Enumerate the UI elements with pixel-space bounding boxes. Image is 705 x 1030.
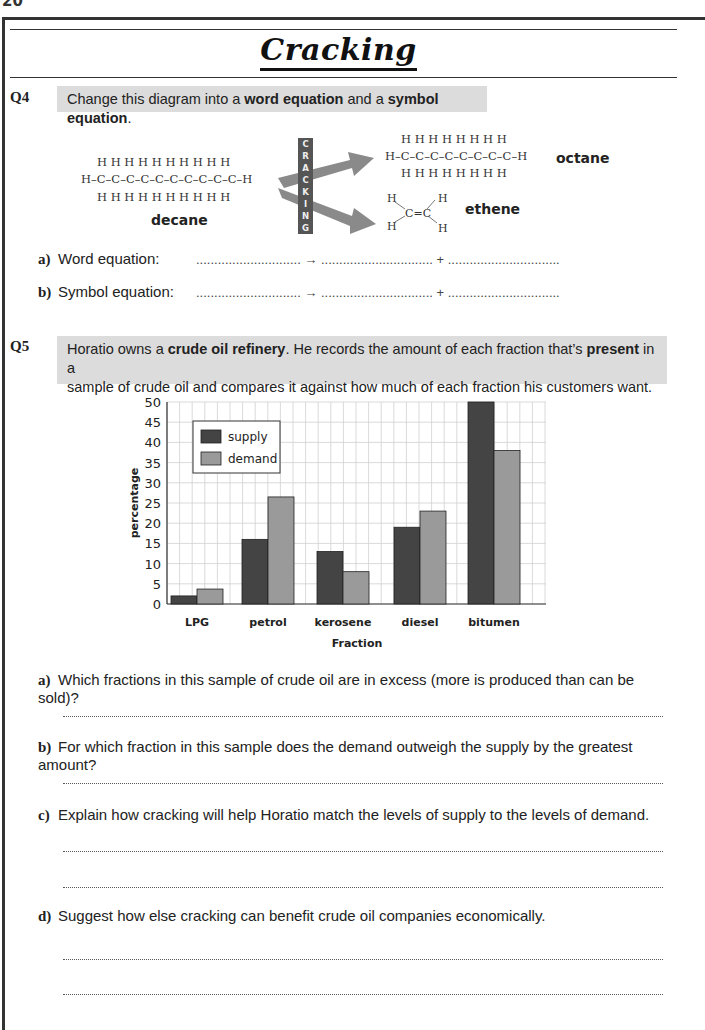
octane-bottom-h: H H H H H H H H (401, 168, 507, 179)
decane-chain: H–C–C–C–C–C–C–C–C–C–C–H (81, 174, 252, 185)
svg-text:45: 45 (144, 415, 161, 430)
decane-bottom-h: H H H H H H H H H H (97, 192, 230, 203)
ethene-structure: H H H H C=C (383, 190, 453, 234)
svg-text:20: 20 (144, 516, 161, 531)
decane-top-h: H H H H H H H H H H (97, 157, 230, 168)
arrow-to-ethene-icon (278, 188, 376, 234)
svg-text:bitumen: bitumen (468, 616, 520, 629)
svg-text:40: 40 (144, 435, 161, 450)
question-number-q5: Q5 (10, 338, 29, 355)
svg-text:10: 10 (144, 557, 161, 572)
question-number-q4: Q4 (10, 89, 29, 106)
cracking-arrows (270, 140, 380, 240)
svg-text:supply: supply (228, 430, 268, 444)
svg-text:diesel: diesel (402, 616, 439, 629)
ethene-label: ethene (465, 201, 520, 217)
svg-text:15: 15 (144, 536, 161, 551)
q4-part-b: b)Symbol equation: (38, 283, 174, 301)
svg-text:30: 30 (144, 476, 161, 491)
bar-chart: 05101520253035404550LPGpetrolkerosenedie… (130, 390, 560, 660)
cracking-label: C R A C K I N G (298, 138, 313, 234)
svg-text:50: 50 (144, 395, 161, 410)
answer-line-c1[interactable] (63, 851, 663, 852)
svg-text:Fraction: Fraction (332, 637, 383, 650)
svg-text:0: 0 (153, 597, 161, 612)
svg-text:H: H (438, 192, 448, 205)
page-number: 20 (2, 0, 23, 10)
q5-part-c: c)Explain how cracking will help Horatio… (38, 806, 649, 824)
octane-label: octane (556, 150, 610, 166)
answer-line-a[interactable] (63, 716, 663, 717)
svg-text:35: 35 (144, 456, 161, 471)
title-rule-bottom (10, 77, 677, 78)
q4-prompt: Change this diagram into a word equation… (57, 86, 487, 112)
q5-part-d: d)Suggest how else cracking can benefit … (38, 907, 546, 925)
q4-part-a: a)Word equation: (38, 250, 159, 268)
svg-text:petrol: petrol (249, 616, 286, 629)
octane-top-h: H H H H H H H H (401, 134, 507, 145)
q5-part-b: b)For which fraction in this sample does… (38, 738, 677, 773)
svg-text:kerosene: kerosene (315, 616, 372, 629)
answer-line-d1[interactable] (63, 959, 663, 960)
page-title: Cracking (0, 32, 677, 67)
answer-line-d2[interactable] (63, 994, 663, 995)
decane-label: decane (151, 212, 208, 228)
svg-text:demand: demand (228, 452, 277, 466)
svg-text:LPG: LPG (185, 616, 209, 629)
svg-text:5: 5 (153, 577, 161, 592)
svg-text:H: H (438, 222, 448, 234)
octane-chain: H–C–C–C–C–C–C–C–C–H (385, 151, 527, 162)
q5-prompt: Horatio owns a crude oil refinery. He re… (57, 336, 667, 384)
svg-text:H: H (387, 192, 397, 205)
symbol-equation-blank[interactable]: ............................. → ........… (196, 285, 560, 300)
svg-text:25: 25 (144, 496, 161, 511)
answer-line-c2[interactable] (63, 887, 663, 888)
word-equation-blank[interactable]: ............................. → ........… (196, 252, 560, 267)
title-rule-top (10, 29, 677, 30)
q5-part-a: a)Which fractions in this sample of crud… (38, 671, 677, 706)
arrow-to-octane-icon (278, 152, 374, 188)
answer-line-b[interactable] (63, 783, 663, 784)
supply-demand-chart: 05101520253035404550LPGpetrolkerosenedie… (130, 390, 560, 664)
svg-text:percentage: percentage (130, 468, 141, 539)
